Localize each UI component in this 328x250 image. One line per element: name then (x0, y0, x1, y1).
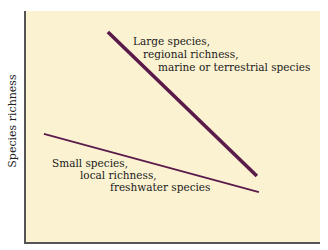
annotation-line: Small species, (52, 157, 128, 170)
x-axis (24, 242, 320, 244)
annotation-line: freshwater species (110, 181, 210, 194)
annotation-line: marine or terrestrial species (158, 61, 310, 74)
annotation-line: local richness, (80, 169, 157, 182)
annotation-line: Large species, (133, 35, 210, 48)
y-axis (24, 11, 26, 243)
annotation-line: regional richness, (143, 48, 238, 61)
y-axis-label: Species richness (6, 74, 19, 167)
